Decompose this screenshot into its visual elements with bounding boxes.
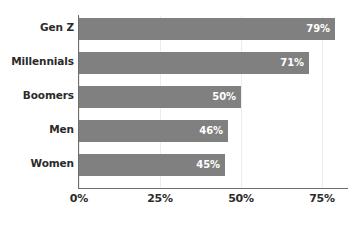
category-label-women: Women [2,157,74,169]
y-axis-labels: Gen Z Millennials Boomers Men Women [0,16,74,188]
bar-value-label: 46% [199,120,223,142]
x-tick-label-50: 50% [228,192,254,205]
plot-area: 79% 71% 50% 46% 45% [79,16,348,188]
bar-men: 46% [79,120,228,142]
bar-value-label: 71% [280,52,304,74]
category-label-gen-z: Gen Z [2,21,74,33]
x-axis-line [78,188,348,189]
gridline-75 [322,16,323,188]
bar-value-label: 79% [306,18,330,40]
category-label-millennials: Millennials [2,55,74,67]
bar-value-label: 50% [212,86,236,108]
x-tick-label-0: 0% [70,192,88,205]
x-tick-label-75: 75% [309,192,335,205]
gridline-50 [241,16,242,188]
bar-millennials: 71% [79,52,309,74]
category-label-men: Men [2,123,74,135]
bar-women: 45% [79,154,225,176]
x-axis-labels: 0% 25% 50% 75% [0,192,362,216]
bar-chart: 79% 71% 50% 46% 45% Gen Z Mi [0,0,362,230]
x-tick-label-25: 25% [147,192,173,205]
bar-boomers: 50% [79,86,241,108]
bar-gen-z: 79% [79,18,335,40]
y-axis-line [78,15,79,189]
category-label-boomers: Boomers [2,89,74,101]
bar-value-label: 45% [196,154,220,176]
